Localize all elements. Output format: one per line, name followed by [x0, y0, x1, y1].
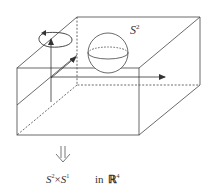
rotation-arrow-icon — [39, 30, 72, 47]
slice-line — [17, 55, 77, 105]
depth-axis-arrow — [51, 57, 76, 78]
caption: S2×S1 — [46, 173, 69, 185]
sphere-label: S2 — [130, 23, 140, 37]
box-front-face — [17, 68, 139, 135]
sphere-s2 — [88, 33, 128, 73]
diagram-canvas: S2 S2×S1 inℝ4 — [0, 0, 213, 193]
caption-space: inℝ4 — [95, 173, 120, 185]
implies-down-arrow-icon — [56, 146, 70, 162]
box-right-face — [139, 17, 200, 135]
